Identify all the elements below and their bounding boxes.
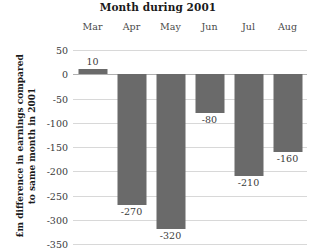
category-tick-aug: Aug	[268, 21, 307, 36]
category-axis: Mar Apr May Jun Jul Aug	[73, 21, 307, 36]
y-tick-label--100: -100	[47, 117, 68, 128]
category-tick-jul: Jul	[229, 21, 268, 36]
bar-group-apr: -270	[112, 50, 151, 244]
bar-mar[interactable]	[78, 69, 107, 74]
bar-series: 10-270-320-80-210-160	[73, 50, 307, 244]
chart-title: Month during 2001	[0, 1, 316, 13]
bar-value-label-jun: -80	[202, 114, 217, 125]
y-tick-label--50: -50	[53, 93, 68, 104]
y-axis-title: £m difference in earnings compared to sa…	[14, 46, 42, 246]
bar-value-label-aug: -160	[277, 153, 298, 164]
bar-jul[interactable]	[234, 74, 263, 176]
bar-group-aug: -160	[268, 50, 307, 244]
bar-may[interactable]	[156, 74, 185, 229]
category-tick-may: May	[151, 21, 190, 36]
y-tick-label--150: -150	[47, 142, 68, 153]
y-tick-label-0: 0	[62, 69, 68, 80]
plot-area: 500-50-100-150-200-250-300-350 10-270-32…	[73, 50, 307, 244]
y-tick-label--200: -200	[47, 166, 68, 177]
bar-apr[interactable]	[117, 74, 146, 205]
bar-group-mar: 10	[73, 50, 112, 244]
chart-figure: Month during 2001 Mar Apr May Jun Jul Au…	[0, 0, 316, 252]
bar-value-label-may: -320	[160, 230, 181, 241]
y-axis-title-line-1: £m difference in earnings compared	[14, 46, 26, 246]
y-tick-label--250: -250	[47, 190, 68, 201]
bar-aug[interactable]	[273, 74, 302, 152]
bar-group-jul: -210	[229, 50, 268, 244]
y-tick-label--300: -300	[47, 214, 68, 225]
bar-value-label-apr: -270	[121, 206, 142, 217]
gridline--350: -350	[73, 244, 307, 245]
category-tick-jun: Jun	[190, 21, 229, 36]
category-tick-apr: Apr	[112, 21, 151, 36]
bar-value-label-mar: 10	[86, 56, 98, 67]
bar-jun[interactable]	[195, 74, 224, 113]
bar-group-may: -320	[151, 50, 190, 244]
y-axis-title-line-2: to same month in 2001	[26, 46, 38, 246]
bar-value-label-jul: -210	[238, 177, 259, 188]
category-tick-mar: Mar	[73, 21, 112, 36]
bar-group-jun: -80	[190, 50, 229, 244]
y-tick-label--350: -350	[47, 239, 68, 250]
y-tick-label-50: 50	[56, 45, 68, 56]
